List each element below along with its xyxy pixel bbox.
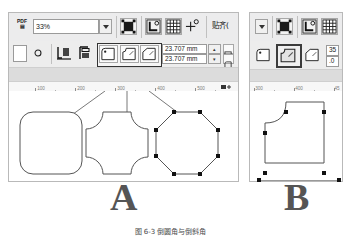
pdf-icon: PDF▤ — [15, 19, 29, 30]
corner-type-round-button[interactable] — [99, 45, 118, 63]
corner-type-chamfer-button[interactable] — [140, 45, 159, 63]
corner-radius-y-stepper[interactable]: ▾ — [208, 54, 221, 64]
mirror-v-icon — [77, 45, 93, 61]
grid-icon — [166, 19, 181, 34]
lock-ratio-button[interactable] — [223, 44, 234, 54]
selection-tool-button[interactable] — [120, 18, 137, 35]
mirror-h-icon — [56, 45, 72, 61]
panel-a-second-toolbar: 23.707 mm 23.707 mm ▴ ▾ — [9, 41, 238, 68]
panel-a-label: A — [110, 178, 137, 216]
selection-handle[interactable] — [322, 110, 326, 114]
corner-radius-y-input[interactable]: 23.707 mm — [162, 54, 207, 64]
rounded-rectangle-shape[interactable] — [19, 111, 91, 182]
stepper-up-icon: ▴ — [213, 46, 216, 52]
snap-bounding-box-button[interactable] — [301, 18, 318, 35]
panel-a-canvas[interactable] — [9, 91, 238, 181]
bbox-corner-icon — [302, 19, 317, 34]
mirror-vertical-button[interactable] — [77, 45, 94, 63]
panel-a-top-toolbar: PDF▤ 33% — [9, 13, 238, 42]
ruler-unit-icon — [221, 83, 231, 91]
corner-radius-x-stepper[interactable]: ▴ — [208, 44, 221, 54]
zoom-dropdown-toggle[interactable] — [99, 19, 112, 34]
snap-grid-button[interactable] — [321, 18, 338, 35]
bbox-corner-icon — [146, 19, 161, 34]
corner-type-round-button[interactable] — [255, 47, 274, 65]
apply-all-corners-button[interactable] — [223, 54, 234, 64]
round-corner-icon — [255, 47, 272, 63]
panel-b-selection-bar — [258, 180, 340, 181]
snap-node-button[interactable] — [185, 18, 202, 35]
selection-handle[interactable] — [172, 110, 176, 114]
selection-handle[interactable] — [257, 178, 261, 182]
snap-grid-button[interactable] — [165, 18, 182, 35]
zoom-dropdown-toggle[interactable] — [255, 19, 268, 34]
circle-icon — [31, 46, 45, 60]
corner-type-inverted-button[interactable] — [276, 44, 302, 68]
ellipse-tool-button[interactable] — [31, 46, 46, 61]
scalloped-square-shape[interactable] — [85, 111, 165, 182]
chamfer-corner-icon — [141, 46, 158, 62]
selection-handle[interactable] — [172, 172, 176, 176]
figure-caption: 图 6-3 倒圆角与倒斜角 — [0, 226, 341, 236]
panel-b-second-toolbar: 35 .0 — [250, 41, 342, 70]
panel-b-top-toolbar — [250, 13, 342, 42]
selection-handle[interactable] — [216, 154, 220, 158]
chamfered-octagon-shape[interactable] — [155, 111, 235, 182]
selection-handle[interactable] — [284, 110, 288, 114]
selection-handle[interactable] — [154, 154, 158, 158]
snap-bounding-box-button[interactable] — [145, 18, 162, 35]
node-snap-icon — [185, 18, 200, 33]
round-corner-icon — [100, 46, 117, 62]
corner-value-bottom-input[interactable]: .0 — [326, 56, 339, 67]
chamfer-corner-icon — [304, 47, 321, 63]
panel-b-canvas[interactable] — [250, 91, 342, 181]
panel-b-label: B — [284, 178, 309, 216]
selection-handle[interactable] — [263, 131, 267, 135]
grid-icon — [322, 19, 337, 34]
selection-square-icon — [121, 19, 136, 34]
single-inverted-corner-shape[interactable] — [264, 101, 330, 171]
selection-handle[interactable] — [154, 128, 158, 132]
corner-radius-preview-button[interactable] — [13, 45, 27, 62]
corner-type-inverted-button[interactable] — [120, 45, 139, 63]
selection-handle[interactable] — [198, 110, 202, 114]
selection-square-icon — [277, 19, 292, 34]
zoom-input[interactable]: 33% — [33, 19, 99, 34]
panel-a-screenshot: PDF▤ 33% — [8, 12, 239, 182]
selection-handle[interactable] — [263, 171, 267, 175]
corner-value-top-input[interactable]: 35 — [326, 45, 339, 56]
chevron-down-icon — [103, 25, 109, 29]
stepper-down-icon: ▾ — [213, 56, 216, 62]
inverted-corner-icon — [121, 46, 138, 62]
selection-handle[interactable] — [198, 172, 202, 176]
selection-handle[interactable] — [322, 171, 326, 175]
panel-a-ruler[interactable] — [9, 67, 238, 82]
selection-tool-button[interactable] — [276, 18, 293, 35]
mirror-horizontal-button[interactable] — [56, 45, 73, 63]
inverted-corner-icon — [279, 47, 298, 64]
selection-handle[interactable] — [337, 178, 341, 182]
snap-menu-label[interactable]: 贴齐( — [212, 22, 229, 30]
corner-radius-x-input[interactable]: 23.707 mm — [162, 44, 207, 54]
corner-type-chamfer-button[interactable] — [304, 47, 323, 65]
selection-handle[interactable] — [216, 128, 220, 132]
chevron-down-icon — [259, 25, 265, 29]
panel-b-screenshot: 35 .0 300 400 45 — [249, 12, 343, 182]
